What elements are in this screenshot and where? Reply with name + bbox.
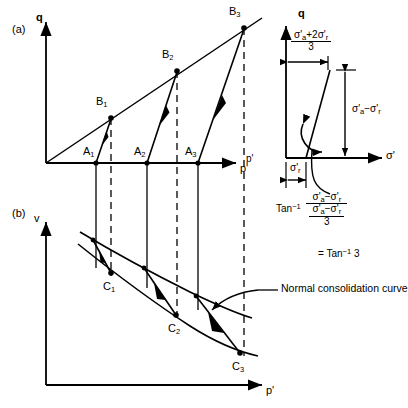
inset-deviator-expression: σ'a−σ'r <box>352 104 381 115</box>
inset-y-axis-label: q <box>298 8 305 19</box>
point-sub-b2: 2 <box>169 53 173 62</box>
point-label-a3: A3 <box>185 146 197 158</box>
point-label-c1: C1 <box>103 281 115 293</box>
inset-pprime-link-label: p' <box>246 154 253 164</box>
inset-angle-result-equals: = <box>318 248 324 259</box>
inset-x-axis-label: σ' <box>386 150 395 161</box>
point-sub-c2: 2 <box>176 327 180 336</box>
panel-a-x-axis-label: p' <box>240 163 248 174</box>
point-label-a2: A2 <box>134 146 146 158</box>
point-sub-a3: 3 <box>192 150 196 159</box>
inset-stress-path-line <box>306 70 330 158</box>
inset-angle-result: = Tan−1 3 <box>318 248 359 259</box>
panel-a-tag: (a) <box>12 24 25 35</box>
panel-b-points <box>91 238 243 356</box>
point-sub-b1: 1 <box>103 100 107 109</box>
point-label-b2: B2 <box>162 49 174 61</box>
panel-b-axes <box>46 222 262 385</box>
point-label-b1: B1 <box>96 96 108 108</box>
inset-radial-stress-expression: σ'r <box>290 163 301 174</box>
point-sub-c3: 3 <box>240 365 244 374</box>
point-label-b3: B3 <box>229 6 241 18</box>
panel-b-transition-paths <box>93 240 240 353</box>
point-label-a1: A1 <box>83 146 95 158</box>
panel-b-tag: (b) <box>12 208 25 219</box>
point-sub-c1: 1 <box>111 285 115 294</box>
point-sub-b3: 3 <box>236 10 240 19</box>
inset-mean-stress-denominator: 3 <box>291 41 331 52</box>
inset-angle-result-tan: Tan−1 <box>326 248 351 259</box>
inset-angle-leader <box>312 150 330 194</box>
panel-b-y-axis-label: v <box>34 213 40 224</box>
inset-mean-stress-expression: σ'a+2σ'r 3 <box>291 30 331 52</box>
point-label-c3: C3 <box>232 361 244 373</box>
panel-b-x-axis-label: p' <box>266 385 274 396</box>
panel-b-upper-curve <box>80 232 252 318</box>
inset-angle-formula: Tan−1 σ'a−σ'r σ'a−σ'r 3 <box>276 192 347 227</box>
point-sub-a1: 1 <box>90 150 94 159</box>
panel-a-y-axis-label: q <box>36 12 43 23</box>
inset-angle-formula-inner-denominator: 3 <box>309 216 344 227</box>
panel-a-axes <box>46 22 236 163</box>
inset-angle-result-value: 3 <box>354 248 360 259</box>
inset-mean-stress-dimension <box>288 56 328 70</box>
inset-angle-formula-prefix: Tan−1 <box>276 203 301 214</box>
point-sub-a2: 2 <box>141 150 145 159</box>
normal-consolidation-curve-annotation: Normal consolidation curve <box>281 283 408 294</box>
point-label-c2: C2 <box>168 323 180 335</box>
